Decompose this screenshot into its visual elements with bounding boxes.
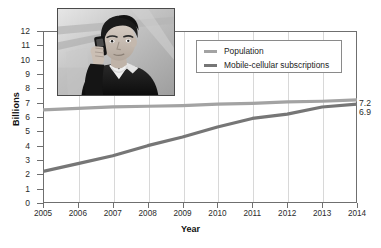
xtick-label-2014: 2014 — [337, 209, 377, 218]
xtick-2005 — [43, 203, 44, 208]
legend: Population Mobile-cellular subscriptions — [196, 40, 342, 73]
legend-label-population: Population — [224, 46, 264, 56]
legend-swatch-population — [204, 50, 217, 53]
ytick-label-0: 0 — [0, 199, 30, 207]
legend-swatch-mobile-cellular — [204, 64, 217, 67]
xtick-2009 — [183, 203, 184, 208]
xtick-2014 — [357, 203, 358, 208]
legend-item-population[interactable]: Population — [197, 44, 341, 58]
xtick-2013 — [322, 203, 323, 208]
ytick-label-1: 1 — [0, 185, 30, 193]
y-axis-title: Billions — [11, 74, 21, 144]
xtick-2011 — [252, 203, 253, 208]
xtick-2012 — [287, 203, 288, 208]
ytick-label-10: 10 — [0, 56, 30, 64]
xtick-2007 — [113, 203, 114, 208]
series-line-mobile-cellular — [43, 104, 357, 171]
photo-man-using-mobile-phone-icon — [57, 8, 175, 96]
legend-label-mobile-cellular: Mobile-cellular subscriptions — [224, 60, 329, 70]
ytick-label-11: 11 — [0, 41, 30, 49]
ytick-label-3: 3 — [0, 156, 30, 164]
xtick-2008 — [148, 203, 149, 208]
end-label-mobile-cellular: 6.9 — [359, 107, 371, 117]
x-axis-title: Year — [0, 224, 381, 234]
ytick-label-2: 2 — [0, 170, 30, 178]
ytick-label-12: 12 — [0, 27, 30, 35]
legend-item-mobile-cellular[interactable]: Mobile-cellular subscriptions — [197, 58, 341, 72]
xtick-2006 — [78, 203, 79, 208]
line-chart: 0 1 2 3 4 5 6 7 8 9 10 11 12 2005 2006 2… — [0, 0, 381, 248]
xtick-2010 — [217, 203, 218, 208]
